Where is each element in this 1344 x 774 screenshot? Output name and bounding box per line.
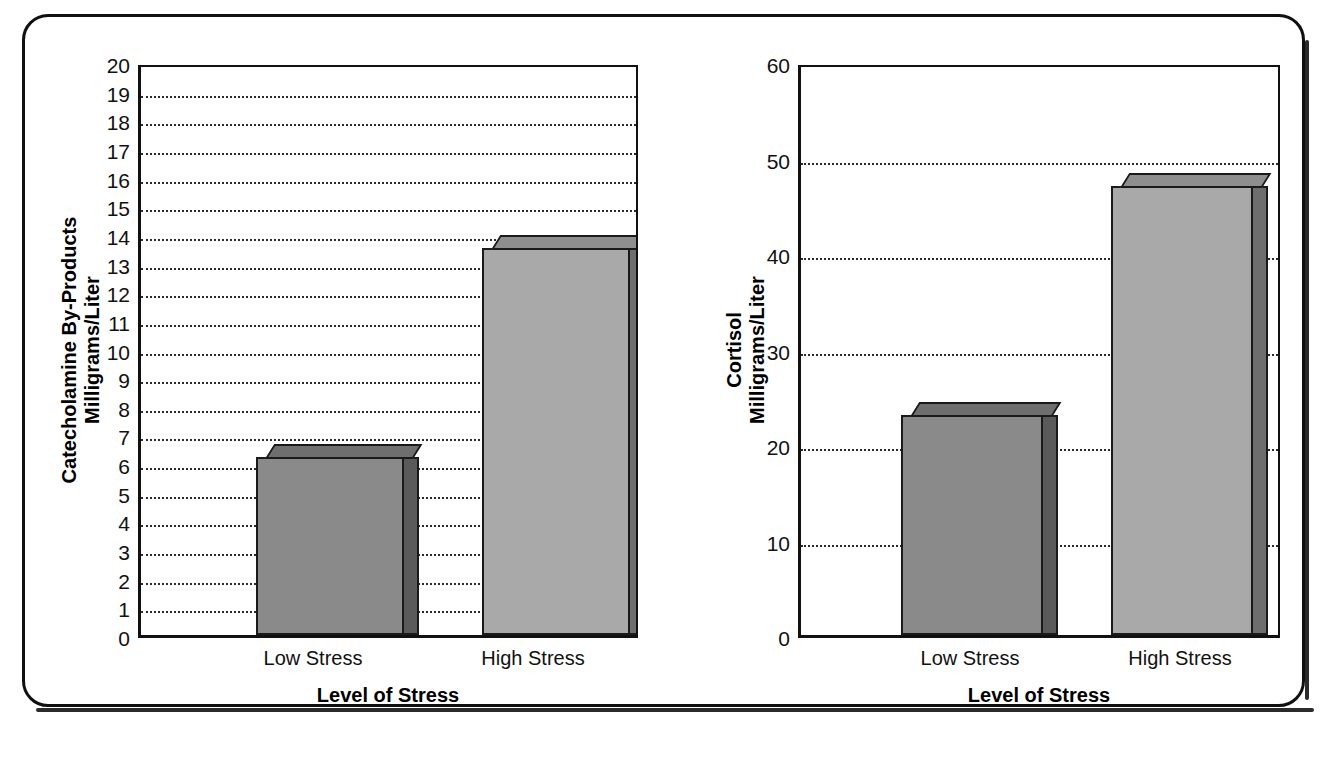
- y-tick-left-2: 2: [88, 570, 130, 591]
- gridline-left-16: [141, 182, 636, 184]
- y-tick-left-13: 13: [88, 255, 130, 276]
- bar-low-stress-cortisol[interactable]: [901, 415, 1043, 635]
- gridline-left-17: [141, 153, 636, 155]
- gridline-left-19: [141, 96, 636, 98]
- y-tick-left-4: 4: [88, 513, 130, 534]
- y-tick-left-11: 11: [88, 312, 130, 333]
- x-label-low-stress-left: Low Stress: [223, 648, 403, 668]
- y-tick-right-40: 40: [742, 246, 790, 267]
- y-tick-right-20: 20: [742, 437, 790, 458]
- y-tick-left-16: 16: [88, 169, 130, 190]
- y-tick-left-12: 12: [88, 284, 130, 305]
- y-tick-right-50: 50: [742, 150, 790, 171]
- y-tick-left-10: 10: [88, 341, 130, 362]
- bar-side-face: [1253, 186, 1268, 635]
- bar-front-face: [1111, 186, 1253, 635]
- bar-high-stress-catecholamine[interactable]: [482, 248, 630, 635]
- bar-top-face: [482, 248, 630, 262]
- bar-low-stress-catecholamine[interactable]: [256, 457, 404, 635]
- plot-area-left: [138, 65, 638, 638]
- x-axis-title-left: Level of Stress: [138, 685, 638, 705]
- bar-high-stress-cortisol[interactable]: [1111, 186, 1253, 635]
- y-tick-right-60: 60: [742, 55, 790, 76]
- y-tick-left-9: 9: [88, 370, 130, 391]
- y-tick-left-7: 7: [88, 427, 130, 448]
- frame-drop-shadow-bottom: [36, 708, 1314, 712]
- bar-front-face: [482, 248, 630, 635]
- y-tick-right-0: 0: [742, 628, 790, 649]
- bar-side-face: [404, 457, 419, 635]
- x-label-low-stress-right: Low Stress: [880, 648, 1060, 668]
- y-tick-left-6: 6: [88, 456, 130, 477]
- bar-top-face: [901, 415, 1043, 429]
- bar-side-face: [1043, 415, 1058, 635]
- bar-side-face: [630, 248, 636, 635]
- y-tick-left-19: 19: [88, 83, 130, 104]
- gridline-left-18: [141, 124, 636, 126]
- x-axis-title-right: Level of Stress: [798, 685, 1280, 705]
- y-tick-left-18: 18: [88, 112, 130, 133]
- y-tick-left-0: 0: [88, 628, 130, 649]
- bar-top-face: [256, 457, 404, 471]
- bar-front-face: [256, 457, 404, 635]
- bar-front-face: [901, 415, 1043, 635]
- plot-area-right: [798, 65, 1280, 638]
- y-tick-left-8: 8: [88, 398, 130, 419]
- x-label-high-stress-right: High Stress: [1090, 648, 1270, 668]
- y-tick-left-14: 14: [88, 226, 130, 247]
- y-tick-left-15: 15: [88, 198, 130, 219]
- y-tick-left-20: 20: [88, 55, 130, 76]
- bar-top-face: [1111, 186, 1253, 200]
- y-tick-left-17: 17: [88, 140, 130, 161]
- chart-catecholamine: Catecholamine By-Products Milligrams/Lit…: [48, 40, 668, 680]
- gridline-right-50: [801, 163, 1278, 165]
- y-tick-right-30: 30: [742, 341, 790, 362]
- y-tick-left-3: 3: [88, 542, 130, 563]
- x-label-high-stress-left: High Stress: [443, 648, 623, 668]
- y-tick-left-1: 1: [88, 599, 130, 620]
- chart-cortisol: Cortisol Milligrams/Liter 60 50 40 30 20…: [690, 40, 1310, 680]
- gridline-left-15: [141, 210, 636, 212]
- y-tick-right-10: 10: [742, 532, 790, 553]
- y-tick-left-5: 5: [88, 484, 130, 505]
